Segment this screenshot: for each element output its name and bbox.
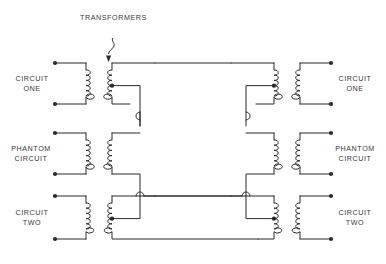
label-right-circuit-one: CIRCUIT ONE xyxy=(327,74,383,93)
coil-winding xyxy=(274,140,282,169)
coil-winding xyxy=(292,70,300,99)
terminal-dot xyxy=(329,237,333,241)
label-right-phantom-circuit: PHANTOM CIRCUIT xyxy=(324,144,386,163)
label-left-circuit-two: CIRCUIT TWO xyxy=(4,208,60,227)
label-left-circuit-one: CIRCUIT ONE xyxy=(4,74,60,93)
wire-hop-icon xyxy=(136,112,140,120)
transformer-right-inner-circuit-two xyxy=(231,196,282,239)
terminal-dot xyxy=(329,172,333,176)
coil-winding xyxy=(86,70,94,99)
coil-winding xyxy=(292,140,300,169)
arrowhead-icon xyxy=(106,56,111,63)
terminal-dot xyxy=(329,131,333,135)
interconnect-bus xyxy=(140,63,242,196)
label-right-circuit-two: CIRCUIT TWO xyxy=(327,208,383,227)
squiggle-leader-icon xyxy=(109,38,115,54)
terminal-dot xyxy=(329,61,333,65)
center-tap-wire xyxy=(246,86,274,126)
winding-spine xyxy=(112,97,130,104)
coil-winding xyxy=(86,140,94,169)
phantom-bottom-wire xyxy=(246,174,274,196)
phantom-bottom-wire xyxy=(112,174,140,196)
secondary-bottom-wire xyxy=(258,232,274,239)
wire-hop-icon xyxy=(246,112,250,120)
page-title: TRANSFORMERS xyxy=(80,13,147,23)
transformer-right-inner-phantom xyxy=(246,133,282,196)
transformer-right-inner-circuit-one xyxy=(231,63,282,126)
title-leader-line xyxy=(106,38,114,62)
coil-winding xyxy=(86,203,94,233)
transformer-left-inner-phantom xyxy=(104,133,140,196)
coil-winding xyxy=(104,140,112,169)
center-tap-wire xyxy=(112,86,140,126)
winding-spine xyxy=(256,97,274,104)
terminal-dot xyxy=(329,102,333,106)
center-tap-wire xyxy=(112,196,140,219)
terminal-dot xyxy=(329,194,333,198)
transformer-left-inner-circuit-two xyxy=(104,196,258,239)
center-tap-wire xyxy=(246,196,274,219)
secondary-bottom-wire xyxy=(112,232,258,239)
label-left-phantom-circuit: PHANTOM CIRCUIT xyxy=(0,144,62,163)
phantom-circuit-transformer-diagram: TRANSFORMERS CIRCUIT ONE PHANTOM CIRCUIT… xyxy=(0,0,386,264)
coil-winding xyxy=(292,203,300,233)
transformer-left-inner-circuit-one xyxy=(104,63,155,126)
